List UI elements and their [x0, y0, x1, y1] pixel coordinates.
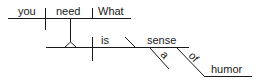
predicate-complement-divider	[125, 37, 135, 47]
word-clause-subject: is	[101, 34, 109, 46]
word-object: What	[98, 5, 124, 17]
word-verb: need	[56, 5, 80, 17]
sentence-diagram: you need What is sense a of humor	[0, 0, 268, 82]
clause-pedestal-foot	[65, 42, 76, 47]
word-prep-object: humor	[211, 63, 243, 75]
word-preposition: of	[187, 49, 203, 65]
preposition-line	[177, 48, 204, 76]
word-subject: you	[18, 5, 36, 17]
word-predicate-noun: sense	[147, 34, 176, 46]
